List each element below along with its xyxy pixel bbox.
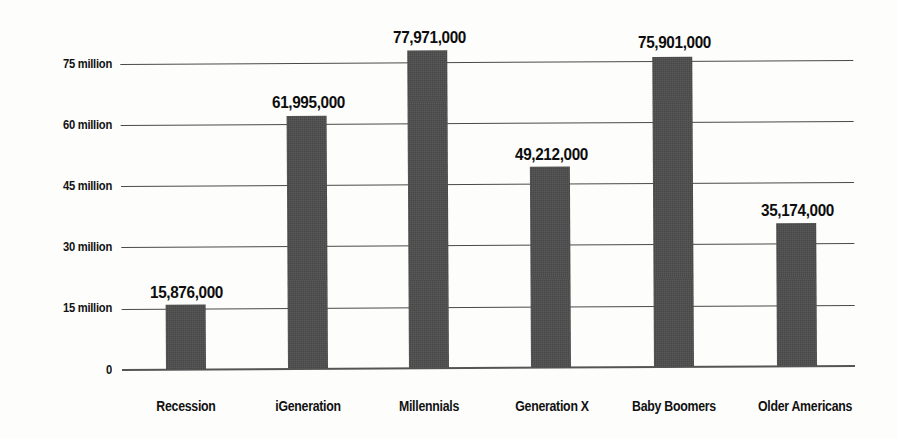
x-tick-label-recession: Recession <box>133 398 239 414</box>
gridline-15m <box>122 305 855 310</box>
y-axis: 75 million 60 million 45 million 30 mill… <box>0 0 112 438</box>
y-tick-label-15m: 15 million <box>63 300 112 315</box>
data-label-baby-boomers: 75,901,000 <box>638 33 710 53</box>
gridline-30m <box>121 243 854 248</box>
data-label-older-americans: 35,174,000 <box>761 201 833 221</box>
y-tick-label-30m: 30 million <box>63 239 112 254</box>
axis-baseline-0 <box>122 365 855 371</box>
bar-igeneration <box>287 116 328 369</box>
y-tick-label-45m: 45 million <box>63 178 112 193</box>
bar-millennials <box>407 50 449 368</box>
data-label-igeneration: 61,995,000 <box>272 93 344 113</box>
x-tick-label-igeneration: iGeneration <box>255 398 361 414</box>
y-tick-label-75m: 75 million <box>63 56 112 71</box>
gridline-45m <box>121 182 854 187</box>
plot-area <box>122 64 855 370</box>
x-tick-label-millennials: Millennials <box>376 398 482 414</box>
bar-generation-x <box>530 166 571 367</box>
bar-recession <box>166 305 206 370</box>
plot-grid-and-bars <box>120 60 855 370</box>
gridline-60m <box>121 121 854 126</box>
x-tick-label-baby-boomers: Baby Boomers <box>621 398 727 414</box>
gridline-75m <box>120 60 853 65</box>
x-axis: Recession iGeneration Millennials Genera… <box>0 398 898 424</box>
data-label-millennials: 77,971,000 <box>393 28 465 48</box>
y-tick-label-60m: 60 million <box>63 117 112 132</box>
y-tick-label-0: 0 <box>106 362 112 377</box>
bar-baby-boomers <box>652 57 694 367</box>
bar-chart: 75 million 60 million 45 million 30 mill… <box>0 0 898 438</box>
data-label-generation-x: 49,212,000 <box>515 145 587 165</box>
x-tick-label-generation-x: Generation X <box>499 398 605 414</box>
x-tick-label-older-americans: Older Americans <box>739 398 871 414</box>
bar-older-americans <box>776 223 817 366</box>
data-label-recession: 15,876,000 <box>150 283 222 303</box>
